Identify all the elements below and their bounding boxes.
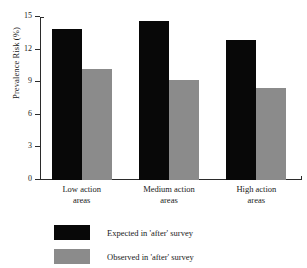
- bar-expected: [139, 21, 169, 180]
- plot-area: 03691215: [40, 17, 302, 180]
- x-axis-category-label: High actionareas: [201, 184, 307, 206]
- x-axis-labels: Low actionareasMedium actionareasHigh ac…: [40, 184, 302, 214]
- y-axis-tick-label: 3: [28, 141, 32, 150]
- bar-observed: [169, 80, 199, 180]
- chart-legend: Expected in 'after' survey Observed in '…: [54, 222, 294, 268]
- bars-layer: [40, 17, 302, 180]
- bar-expected: [52, 29, 82, 180]
- y-axis-tick-label: 12: [24, 44, 32, 53]
- legend-item-observed: Observed in 'after' survey: [54, 246, 294, 267]
- legend-label-expected: Expected in 'after' survey: [107, 228, 193, 238]
- legend-label-observed: Observed in 'after' survey: [107, 252, 194, 262]
- bar-expected: [226, 40, 256, 180]
- y-axis-title: Prevalence Risk (%): [11, 3, 21, 123]
- bar-chart: Prevalence Risk (%) 03691215 Low actiona…: [0, 0, 307, 268]
- y-axis-tick-label: 0: [28, 174, 32, 183]
- bar-observed: [256, 88, 286, 180]
- y-axis-tick-label: 6: [28, 109, 32, 118]
- legend-swatch-expected-icon: [54, 225, 90, 240]
- bar-observed: [82, 69, 112, 180]
- legend-item-expected: Expected in 'after' survey: [54, 222, 294, 243]
- x-axis-category-label-line: areas: [201, 195, 307, 206]
- x-axis-category-label-line: High action: [201, 184, 307, 195]
- legend-swatch-observed-icon: [54, 249, 90, 264]
- y-axis-tick-label: 15: [24, 11, 32, 20]
- y-axis-tick-label: 9: [28, 76, 32, 85]
